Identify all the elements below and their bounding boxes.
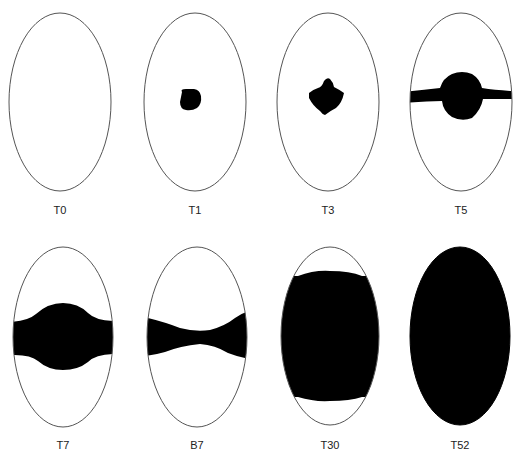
filled-region [278,271,382,401]
diagram-canvas [0,0,523,457]
panel-label-t30: T30 [300,439,360,451]
panel-b7 [144,247,250,427]
filled-region [180,89,201,110]
panel-label-t1: T1 [165,204,225,216]
panel-t52 [410,247,510,425]
panel-label-t0: T0 [30,204,90,216]
panel-t7 [10,247,116,427]
panel-t5 [405,13,512,191]
panel-t30 [278,247,382,425]
panel-t1 [144,13,246,191]
panel-t0 [9,13,111,191]
filled-region [410,247,510,425]
panel-label-t7: T7 [33,439,93,451]
panel-label-t3: T3 [298,204,358,216]
panel-label-t52: T52 [430,439,490,451]
panel-label-b7: B7 [167,439,227,451]
ellipse-outline [9,13,111,191]
panel-t3 [277,13,379,191]
panel-label-t5: T5 [431,204,491,216]
